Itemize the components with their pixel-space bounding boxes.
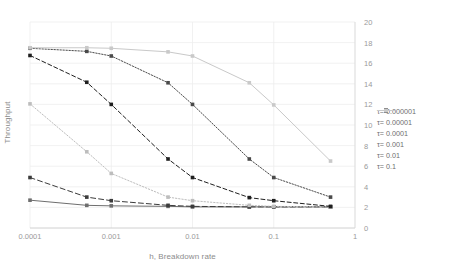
y-tick-label: 4 (364, 182, 368, 191)
legend-item-label: τ= 0.0001 (376, 129, 408, 138)
legend-item[interactable]: τ= 0.001 (376, 139, 450, 150)
data-point-marker (109, 54, 113, 58)
legend-item[interactable]: τ= 0.01 (376, 150, 450, 161)
x-tick-label: 0.001 (102, 232, 121, 241)
legend-item-label: τ= 0.1 (376, 162, 396, 171)
data-point-marker (109, 46, 113, 50)
data-point-marker (28, 54, 32, 58)
x-tick-label: 0.0001 (19, 232, 42, 241)
y-tick-label: 0 (364, 224, 368, 233)
x-tick-label: 0.1 (269, 232, 279, 241)
series-line (30, 55, 331, 206)
series-3 (28, 54, 332, 209)
y-tick-label: 8 (364, 141, 368, 150)
y-tick-label: 2 (364, 203, 368, 212)
data-point-marker (166, 195, 170, 199)
series-line (30, 48, 331, 197)
data-point-marker (247, 196, 251, 200)
y-tick-label: 16 (364, 59, 372, 68)
data-point-marker (247, 204, 251, 208)
data-point-marker (28, 198, 32, 202)
x-tick-label: 1 (353, 232, 357, 241)
y-tick-label: 20 (364, 18, 372, 27)
data-point-marker (191, 54, 195, 58)
legend-item-label: τ= 0.00001 (376, 118, 412, 127)
data-point-marker (272, 103, 276, 107)
data-point-marker (247, 157, 251, 161)
data-point-marker (166, 157, 170, 161)
legend-item-label: τ= 0.01 (376, 151, 400, 160)
legend-item-label: τ= 0.001 (376, 140, 404, 149)
data-point-marker (247, 81, 251, 85)
data-point-marker (191, 199, 195, 203)
y-tick-label: 14 (364, 79, 372, 88)
legend-marker (384, 109, 388, 113)
chart-container: h, Breakdown rate Throughput 0.00010.001… (0, 0, 450, 275)
data-point-marker (191, 205, 195, 209)
data-point-marker (191, 176, 195, 180)
data-point-marker (109, 103, 113, 107)
series-4 (28, 46, 332, 198)
y-tick-label: 18 (364, 38, 372, 47)
data-point-marker (28, 46, 32, 50)
data-point-marker (109, 199, 113, 203)
data-point-marker (85, 46, 89, 50)
data-point-marker (28, 102, 32, 106)
data-point-marker (85, 204, 89, 208)
data-point-marker (28, 176, 32, 180)
data-point-marker (272, 199, 276, 203)
legend-item[interactable]: τ= 0.0001 (376, 128, 450, 139)
data-point-marker (166, 50, 170, 54)
data-point-marker (166, 81, 170, 85)
data-point-marker (272, 205, 276, 209)
data-point-marker (329, 159, 333, 163)
data-point-marker (85, 195, 89, 199)
legend-item[interactable]: τ= 0.00001 (376, 117, 450, 128)
data-point-marker (85, 80, 89, 84)
data-point-marker (329, 205, 333, 209)
data-point-marker (85, 50, 89, 54)
y-tick-label: 12 (364, 100, 372, 109)
data-point-marker (329, 195, 333, 199)
legend-key-icon (376, 106, 396, 115)
data-point-marker (109, 172, 113, 176)
y-tick-label: 6 (364, 162, 368, 171)
data-point-marker (85, 150, 89, 154)
y-axis-title: Throughput (3, 88, 12, 158)
data-point-marker (109, 204, 113, 208)
x-tick-label: 0.01 (185, 232, 200, 241)
x-axis-title: h, Breakdown rate (0, 252, 365, 261)
data-point-marker (166, 204, 170, 208)
series-line (30, 178, 331, 207)
legend-item[interactable]: τ= 0.1 (376, 161, 450, 172)
y-tick-label: 10 (364, 121, 372, 130)
data-point-marker (191, 103, 195, 107)
series-line (30, 104, 331, 207)
chart-legend: τ= 0.000001τ= 0.00001τ= 0.0001τ= 0.001τ=… (376, 106, 450, 172)
data-point-marker (272, 176, 276, 180)
